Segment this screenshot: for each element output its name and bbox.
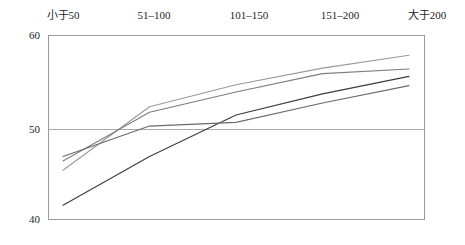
line-chart: 小于50 51–100 101–150 151–200 大于200 60 50 … <box>0 0 465 245</box>
series-layer <box>63 55 409 205</box>
series-line-3 <box>63 86 409 157</box>
plot-frame <box>49 36 425 220</box>
plot-area <box>0 0 465 245</box>
series-line-0 <box>63 55 409 170</box>
